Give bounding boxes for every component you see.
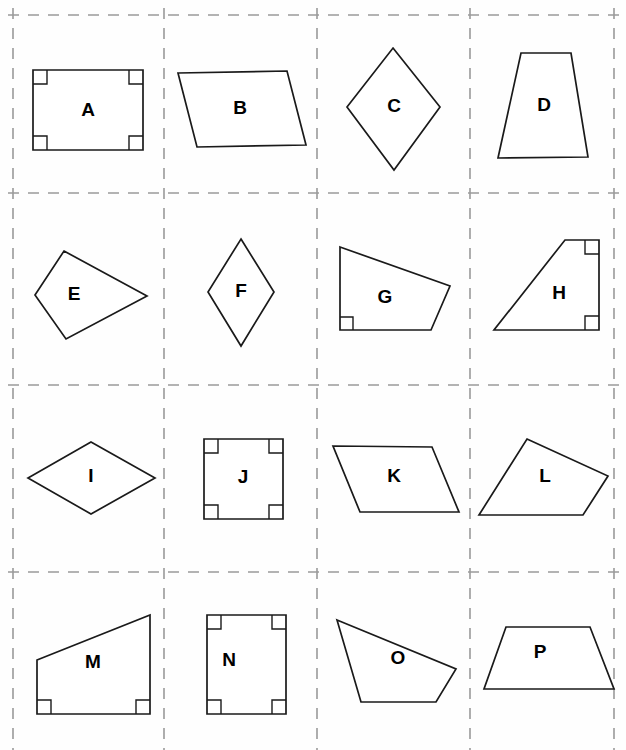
- shape-cell-p[interactable]: P: [484, 627, 614, 689]
- shape-label-m: M: [85, 651, 101, 672]
- shape-cell-a[interactable]: A: [33, 70, 143, 150]
- shape-cell-o[interactable]: O: [337, 620, 456, 702]
- shape-label-g: G: [378, 286, 393, 307]
- shape-e-kite[interactable]: [35, 251, 147, 339]
- shape-cell-i[interactable]: I: [28, 442, 155, 514]
- shape-n-rectangle[interactable]: [207, 615, 286, 714]
- shape-g-right-trapezoid[interactable]: [340, 247, 450, 330]
- quadrilaterals-diagram: ABCDEFGHIJKLMNOP: [0, 0, 626, 750]
- shape-label-i: I: [88, 465, 93, 486]
- shape-cell-f[interactable]: F: [208, 239, 274, 346]
- shape-label-k: K: [387, 465, 401, 486]
- shape-label-c: C: [387, 95, 401, 116]
- shape-cell-b[interactable]: B: [178, 71, 306, 147]
- shape-label-e: E: [68, 283, 81, 304]
- worksheet-canvas: ABCDEFGHIJKLMNOP: [0, 0, 626, 750]
- shape-cell-l[interactable]: L: [479, 439, 608, 515]
- shape-label-a: A: [81, 99, 95, 120]
- shape-cell-g[interactable]: G: [340, 247, 450, 330]
- shape-label-n: N: [222, 649, 236, 670]
- shapes-layer: ABCDEFGHIJKLMNOP: [28, 48, 614, 714]
- shape-cell-m[interactable]: M: [37, 615, 150, 714]
- shape-p-trapezoid[interactable]: [484, 627, 614, 689]
- shape-label-f: F: [235, 280, 247, 301]
- shape-label-h: H: [552, 282, 566, 303]
- shape-label-o: O: [391, 647, 406, 668]
- shape-label-l: L: [539, 465, 551, 486]
- shape-label-p: P: [534, 641, 547, 662]
- shape-label-j: J: [238, 466, 249, 487]
- shape-cell-j[interactable]: J: [204, 439, 283, 519]
- shape-cell-h[interactable]: H: [494, 240, 599, 330]
- shape-cell-e[interactable]: E: [35, 251, 147, 339]
- shape-cell-n[interactable]: N: [207, 615, 286, 714]
- shape-cell-k[interactable]: K: [333, 446, 459, 512]
- shape-h-right-trapezoid[interactable]: [494, 240, 599, 330]
- shape-label-b: B: [233, 97, 247, 118]
- shape-label-d: D: [537, 94, 551, 115]
- shape-cell-c[interactable]: C: [347, 48, 440, 170]
- shape-cell-d[interactable]: D: [498, 53, 588, 158]
